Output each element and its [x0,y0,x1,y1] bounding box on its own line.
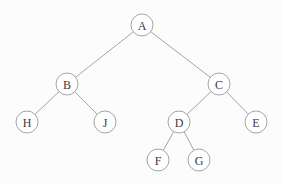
tree-node-label-h: H [23,116,32,130]
tree-edge-a-c [151,32,211,78]
tree-node-label-e: E [252,116,259,130]
tree-edge-a-b [76,32,134,77]
tree-node-label-a: A [138,19,147,33]
tree-node-label-g: G [195,154,204,168]
tree-node-j[interactable]: J [94,111,116,133]
tree-node-b[interactable]: B [56,73,78,95]
tree-diagram-svg: ABCHJDEFG [0,0,282,184]
tree-node-f[interactable]: F [147,149,169,171]
tree-edge-b-h [35,92,59,115]
tree-edge-c-d [187,92,211,115]
tree-node-label-f: F [155,154,162,168]
tree-diagram-canvas: ABCHJDEFG [0,0,282,184]
tree-node-label-j: J [103,116,108,130]
tree-nodes-group: ABCHJDEFG [16,14,267,171]
tree-node-label-c: C [215,78,223,92]
tree-edge-d-g [184,132,194,151]
tree-node-c[interactable]: C [208,73,230,95]
tree-node-d[interactable]: D [168,111,190,133]
tree-node-h[interactable]: H [16,111,38,133]
tree-node-label-d: D [175,116,184,130]
tree-node-label-b: B [63,78,71,92]
tree-node-e[interactable]: E [245,111,267,133]
tree-node-a[interactable]: A [131,14,153,36]
tree-edge-d-f [163,132,173,151]
tree-edge-b-j [75,92,97,114]
tree-node-g[interactable]: G [188,149,210,171]
tree-edge-c-e [227,92,249,114]
